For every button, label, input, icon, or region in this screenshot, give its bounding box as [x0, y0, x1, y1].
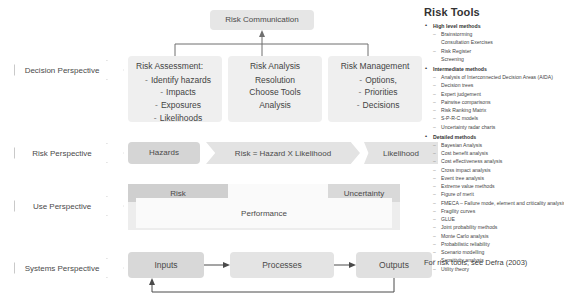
risk-perspective-arrow: Risk Perspective [14, 143, 124, 163]
risk-assessment-list: Identify hazards Impacts Exposures Likel… [134, 74, 216, 125]
tool-item: Analysis of Interconnected Decision Area… [424, 73, 562, 81]
list-item: Identify hazards [134, 74, 216, 87]
tool-item: Risk Register [424, 47, 562, 55]
tool-item: Decision trees [424, 81, 562, 89]
risk-analysis-box: Risk Analysis Resolution Choose Tools An… [228, 56, 322, 122]
inputs-box: Inputs [128, 252, 204, 278]
risk-management-box: Risk Management Options, Priorities Deci… [328, 56, 422, 122]
tool-item: Fragility curves [424, 207, 562, 215]
tool-list-high-level: Brainstorming Consultation Exercises Ris… [424, 30, 562, 63]
list-item: Choose Tools [234, 86, 316, 99]
tool-item: Cross impact analysis [424, 166, 562, 174]
tool-item: GLUE [424, 215, 562, 223]
hazards-box: Hazards [128, 142, 200, 164]
systems-perspective-label: Systems Perspective [25, 264, 100, 273]
hazards-label: Hazards [149, 148, 179, 158]
list-item: Exposures [134, 99, 216, 112]
risk-management-header: Risk Management [334, 61, 416, 72]
tool-item: Probabilistic reliability [424, 240, 562, 248]
likelihood-label: Likelihood [383, 149, 419, 158]
inputs-label: Inputs [154, 260, 177, 271]
list-item: Likelihoods [134, 112, 216, 125]
risk-management-list: Options, Priorities Decisions [334, 74, 416, 112]
list-item: Options, [334, 74, 416, 87]
risk-communication-label: Risk Communication [225, 15, 298, 25]
tool-item: Monte Carlo analysis [424, 232, 562, 240]
tool-group-heading: Intermediate methods [424, 66, 562, 72]
decision-perspective-arrow: Decision Perspective [14, 60, 124, 80]
use-uncertainty-label: Uncertainty [344, 189, 384, 198]
processes-box: Processes [230, 252, 334, 278]
risk-equation-box: Risk = Hazard X Likelihood [206, 142, 360, 164]
tool-group-heading: Detailed methods [424, 134, 562, 140]
risk-tools-title: Risk Tools [424, 6, 562, 18]
tool-item: Screening [424, 55, 562, 63]
use-performance-label: Performance [241, 209, 287, 218]
tool-group-intermediate: Intermediate methods Analysis of Interco… [424, 66, 562, 131]
tool-item: Uncertainty radar charts [424, 123, 562, 131]
outputs-box: Outputs [356, 252, 432, 278]
risk-assessment-box: Risk Assessment: Identify hazards Impact… [128, 56, 222, 122]
use-perspective-arrow: Use Perspective [14, 196, 124, 216]
list-item: Impacts [134, 86, 216, 99]
tool-item: Brainstorming [424, 30, 562, 38]
list-item: Resolution [234, 74, 316, 87]
tool-item: Bayesian Analysis [424, 141, 562, 149]
systems-perspective-arrow: Systems Perspective [14, 258, 124, 278]
tool-list-detailed: Bayesian Analysis Cost benefit analysis … [424, 141, 562, 273]
risk-communication-box: Risk Communication [210, 10, 314, 30]
list-item: Priorities [334, 86, 416, 99]
tool-group-detailed: Detailed methods Bayesian Analysis Cost … [424, 134, 562, 273]
processes-label: Processes [262, 260, 302, 271]
tool-item: Joint probability methods [424, 223, 562, 231]
tool-item: Expert judgement [424, 90, 562, 98]
use-risk-label: Risk [170, 189, 186, 198]
decision-perspective-label: Decision Perspective [25, 66, 100, 75]
tool-item: Consultation Exercises [424, 38, 562, 46]
outputs-label: Outputs [379, 260, 409, 271]
tool-item: Extreme value methods [424, 182, 562, 190]
use-perspective-row: Risk Uncertainty Performance [128, 184, 400, 230]
tool-item: FMECA – Failure mode, element and critic… [424, 199, 562, 207]
diagram-canvas: Risk Communication Risk Assessment: Iden… [0, 0, 564, 302]
tool-group-high-level: High level methods Brainstorming Consult… [424, 23, 562, 63]
risk-analysis-header: Risk Analysis [234, 61, 316, 72]
tool-item: Pairwise comparisons [424, 98, 562, 106]
defra-footnote: For risk tools, see Defra (2003) [424, 258, 564, 267]
list-item: Decisions [334, 99, 416, 112]
tool-item: Cost benefit analysis [424, 149, 562, 157]
tool-item: Cost effectiveness analysis [424, 157, 562, 165]
tool-group-heading: High level methods [424, 23, 562, 29]
tool-item: S-P-R-C models [424, 114, 562, 122]
risk-assessment-header: Risk Assessment: [134, 61, 218, 72]
tool-item: Scenario modelling [424, 248, 562, 256]
risk-tools-panel: Risk Tools High level methods Brainstorm… [424, 6, 562, 276]
tool-item: Risk Ranking Matrix [424, 106, 562, 114]
use-perspective-label: Use Perspective [33, 202, 91, 211]
risk-perspective-label: Risk Perspective [32, 149, 92, 158]
tool-item: Figure of merit [424, 190, 562, 198]
tool-item: Event tree analysis [424, 174, 562, 182]
use-performance-block: Performance [136, 198, 392, 228]
tool-list-intermediate: Analysis of Interconnected Decision Area… [424, 73, 562, 131]
risk-analysis-list: Resolution Choose Tools Analysis [234, 74, 316, 112]
risk-equation-label: Risk = Hazard X Likelihood [235, 149, 331, 158]
list-item: Analysis [234, 99, 316, 112]
